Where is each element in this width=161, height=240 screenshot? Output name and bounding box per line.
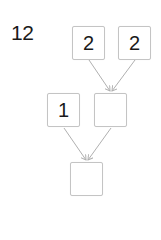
arrow-middle-left-to-bottom (64, 128, 86, 160)
arrow-top-right-to-middle (112, 60, 135, 91)
box-middle-left: 1 (47, 93, 80, 127)
box-top-left: 2 (72, 26, 105, 60)
box-middle-right-answer[interactable] (94, 93, 127, 127)
box-bottom-answer[interactable] (70, 162, 103, 196)
arrow-top-left-to-middle (89, 60, 110, 91)
box-top-right: 2 (118, 26, 151, 60)
arrow-middle-right-to-bottom (88, 128, 111, 160)
